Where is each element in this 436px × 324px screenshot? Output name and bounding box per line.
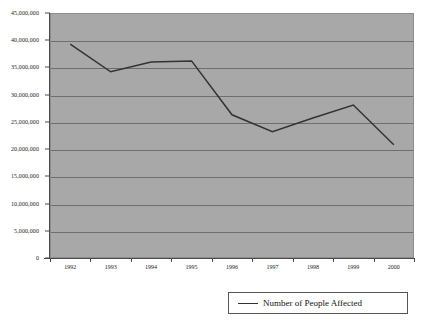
x-axis-tick-label: 1998: [307, 264, 319, 270]
y-axis-tick-label: 20,000,000: [11, 146, 39, 152]
x-axis-tick-label: 2000: [388, 264, 400, 270]
chart-legend: Number of People Affected: [228, 292, 408, 314]
y-axis-tick-label: 30,000,000: [11, 92, 39, 98]
y-axis-tick-label: 0: [36, 255, 39, 261]
y-axis-labels: 45,000,00040,000,00035,000,00030,000,000…: [0, 0, 46, 324]
data-series-line: [50, 13, 414, 258]
y-axis-tick-label: 10,000,000: [11, 201, 39, 207]
series-line-number-of-people-affected: [70, 44, 394, 145]
line-chart: 45,000,00040,000,00035,000,00030,000,000…: [0, 0, 436, 324]
x-axis-tick: [50, 258, 51, 262]
x-axis-tick: [333, 258, 334, 262]
x-axis-tick-label: 1997: [266, 264, 278, 270]
x-axis-tick: [171, 258, 172, 262]
y-axis-tick-label: 40,000,000: [11, 37, 39, 43]
y-axis-tick-label: 45,000,000: [11, 10, 39, 16]
x-axis-tick: [131, 258, 132, 262]
x-axis-tick-label: 1996: [226, 264, 238, 270]
x-axis-tick: [212, 258, 213, 262]
x-axis-tick-label: 1994: [145, 264, 157, 270]
x-axis-tick: [374, 258, 375, 262]
legend-line-swatch: [238, 303, 258, 304]
x-axis-tick-label: 1992: [64, 264, 76, 270]
x-axis-tick: [414, 258, 415, 262]
x-axis-tick-label: 1993: [105, 264, 117, 270]
x-axis-tick: [293, 258, 294, 262]
x-axis-tick: [252, 258, 253, 262]
x-axis-line: [44, 258, 415, 259]
legend-label-number-of-people-affected: Number of People Affected: [263, 298, 362, 308]
x-axis-tick-label: 1995: [186, 264, 198, 270]
y-axis-tick-label: 5,000,000: [14, 228, 39, 234]
y-axis-tick-label: 35,000,000: [11, 64, 39, 70]
x-axis-tick-label: 1999: [347, 264, 359, 270]
y-axis-tick-label: 15,000,000: [11, 173, 39, 179]
x-axis-tick: [90, 258, 91, 262]
y-axis-tick-label: 25,000,000: [11, 119, 39, 125]
